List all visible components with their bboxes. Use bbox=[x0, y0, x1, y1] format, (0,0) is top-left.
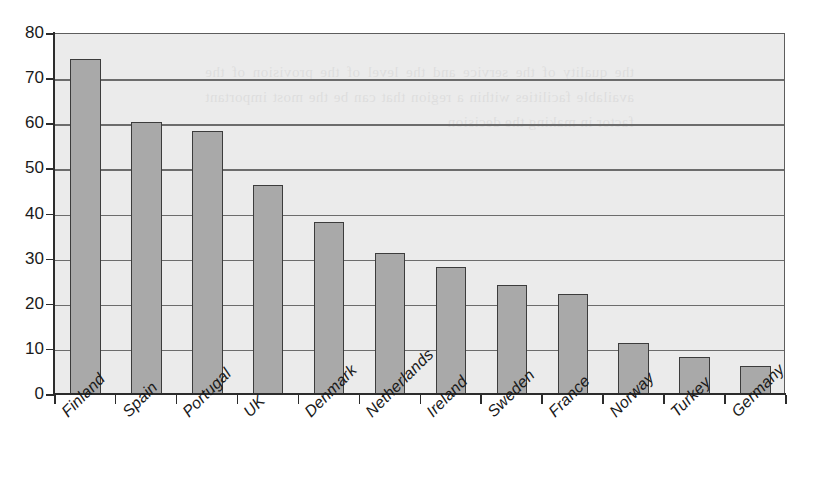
y-tick-label-10: 10 bbox=[10, 340, 44, 357]
x-tick-mark bbox=[115, 395, 117, 404]
x-tick-mark bbox=[724, 395, 726, 404]
y-tick-label-60: 60 bbox=[10, 114, 44, 131]
x-tick-mark bbox=[480, 395, 482, 404]
bar-ireland bbox=[436, 267, 466, 393]
x-tick-mark bbox=[237, 395, 239, 404]
bar-finland bbox=[70, 59, 100, 393]
x-tick-mark bbox=[298, 395, 300, 404]
y-tick-label-50: 50 bbox=[10, 159, 44, 176]
x-tick-mark bbox=[359, 395, 361, 404]
gridline bbox=[55, 124, 784, 126]
x-tick-mark bbox=[54, 395, 56, 404]
y-tick-mark bbox=[46, 123, 54, 125]
gridline bbox=[55, 215, 784, 217]
y-tick-label-30: 30 bbox=[10, 250, 44, 267]
x-tick-mark bbox=[785, 395, 787, 404]
y-tick-label-70: 70 bbox=[10, 69, 44, 86]
x-tick-mark bbox=[541, 395, 543, 404]
gridline bbox=[55, 169, 784, 171]
y-tick-mark bbox=[46, 349, 54, 351]
bar-portugal bbox=[192, 131, 222, 393]
page-bleed-through-text: the quality of the service and the level… bbox=[55, 34, 784, 393]
y-tick-mark bbox=[46, 78, 54, 80]
x-label-uk: UK bbox=[240, 392, 269, 421]
y-tick-mark bbox=[46, 259, 54, 261]
y-axis-tick-labels: 80706050403020100 bbox=[0, 0, 44, 500]
y-tick-mark bbox=[46, 394, 54, 396]
x-tick-mark bbox=[602, 395, 604, 404]
x-tick-mark bbox=[176, 395, 178, 404]
y-tick-label-40: 40 bbox=[10, 205, 44, 222]
x-tick-mark bbox=[420, 395, 422, 404]
y-tick-label-20: 20 bbox=[10, 295, 44, 312]
y-tick-mark bbox=[46, 168, 54, 170]
y-tick-mark bbox=[46, 304, 54, 306]
y-tick-label-80: 80 bbox=[10, 24, 44, 41]
x-tick-mark bbox=[663, 395, 665, 404]
y-tick-label-0: 0 bbox=[10, 385, 44, 402]
bar-spain bbox=[131, 122, 161, 393]
y-tick-mark bbox=[46, 33, 54, 35]
gridline bbox=[55, 79, 784, 81]
plot-area: the quality of the service and the level… bbox=[54, 33, 785, 394]
y-tick-mark bbox=[46, 214, 54, 216]
bar-chart: the quality of the service and the level… bbox=[0, 0, 816, 500]
gridline bbox=[55, 260, 784, 262]
bar-uk bbox=[253, 185, 283, 393]
gridline bbox=[55, 305, 784, 307]
